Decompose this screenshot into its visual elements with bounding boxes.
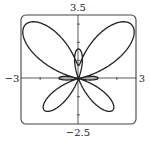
butterfly-curve xyxy=(23,22,134,112)
tick-marks xyxy=(40,24,117,115)
y-max-label: 3.5 xyxy=(70,2,86,13)
plot-frame xyxy=(21,15,136,124)
axes xyxy=(21,15,136,124)
x-max-label: 3 xyxy=(139,73,145,84)
y-min-label: −2.5 xyxy=(66,127,90,138)
polar-plot: 3.5 −2.5 −3 3 xyxy=(0,0,150,141)
x-min-label: −3 xyxy=(5,73,20,84)
